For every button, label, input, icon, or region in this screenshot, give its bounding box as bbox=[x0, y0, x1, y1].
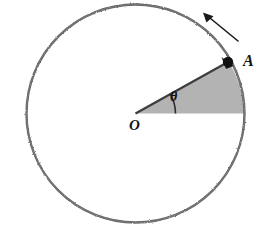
origin-label: O bbox=[129, 118, 140, 133]
angle-theta-label: θ bbox=[170, 90, 177, 104]
circle-angle-diagram: A O θ bbox=[0, 0, 278, 232]
diagram-canvas bbox=[0, 0, 278, 232]
shaded-sector bbox=[136, 62, 245, 114]
rotation-arrow-head bbox=[203, 13, 214, 23]
point-a-label: A bbox=[243, 53, 254, 69]
